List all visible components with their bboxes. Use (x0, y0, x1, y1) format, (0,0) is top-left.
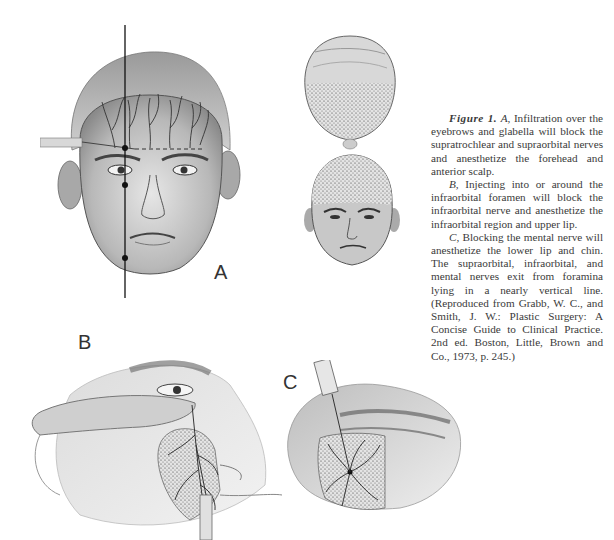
caption-label-a: A, (501, 112, 511, 124)
infraorbital-foramen-dot (122, 182, 128, 188)
figure-panel-top-view (295, 32, 405, 152)
small-face-illustration (302, 150, 402, 270)
figure-panel-c (280, 360, 470, 520)
infraorbital-block-illustration (20, 355, 290, 540)
caption-paragraph-b: B, Injecting into or around the infraorb… (431, 178, 603, 231)
figure-panel-front-small (302, 150, 402, 270)
figure-panel-b (20, 355, 290, 540)
panel-label-b: B (78, 332, 91, 352)
figure-label: Figure 1. (449, 112, 497, 124)
figure-caption: Figure 1. A, Infiltration over the eyebr… (431, 112, 603, 363)
caption-label-b: B, (449, 178, 459, 190)
supraorbital-foramen-dot (122, 145, 128, 151)
panel-label-a: A (214, 262, 227, 282)
mental-nerve-block-illustration (280, 360, 470, 520)
face-frontal-illustration (40, 10, 260, 300)
mental-foramen-dot (122, 255, 128, 261)
caption-paragraph-a: Figure 1. A, Infiltration over the eyebr… (431, 112, 603, 178)
figure-panel-a (40, 10, 260, 300)
head-top-view-illustration (295, 32, 405, 152)
caption-paragraph-c: C, Blocking the mental nerve will anesth… (431, 231, 603, 363)
caption-text-c: Blocking the mental nerve will anestheti… (431, 231, 603, 362)
caption-label-c: C, (449, 231, 459, 243)
